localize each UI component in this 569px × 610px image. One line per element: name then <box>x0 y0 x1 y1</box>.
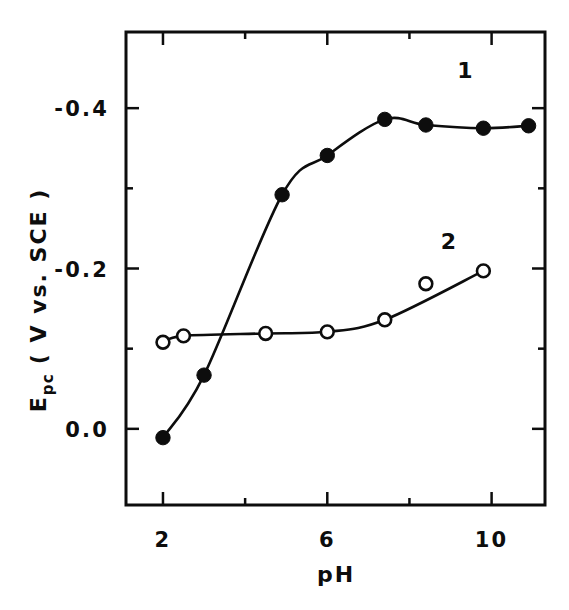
x-axis-title: pH <box>317 562 355 587</box>
y-axis-title-base: E <box>26 395 51 412</box>
data-point <box>521 119 535 133</box>
series-markers <box>156 112 536 445</box>
y-axis-tick-labels: -0.4-0.20.0 <box>54 97 109 442</box>
x-tick-label: 6 <box>319 528 336 552</box>
data-point <box>177 329 190 342</box>
y-axis-title-units: ( V vs. SCE ) <box>26 188 51 365</box>
series-label-2: 2 <box>441 229 456 254</box>
series-label-1: 1 <box>457 58 472 83</box>
data-point <box>419 277 432 290</box>
data-point <box>419 118 433 132</box>
figure-container: 2610 -0.4-0.20.0 12 pH Epc( V vs. SCE ) <box>0 0 569 610</box>
data-point <box>378 112 392 126</box>
y-tick-label: -0.2 <box>54 258 109 282</box>
data-point <box>197 368 211 382</box>
data-point <box>157 336 170 349</box>
x-axis-tick-labels: 2610 <box>155 528 509 552</box>
x-axis-ticks <box>163 32 492 505</box>
x-tick-label: 10 <box>475 528 509 552</box>
data-point <box>476 121 490 135</box>
data-point <box>477 265 490 278</box>
series-curve-1 <box>163 118 529 438</box>
y-tick-label: 0.0 <box>65 418 109 442</box>
data-point <box>156 430 170 444</box>
data-point <box>275 188 289 202</box>
y-tick-label: -0.4 <box>54 97 109 121</box>
chart-canvas: 2610 -0.4-0.20.0 12 pH Epc( V vs. SCE ) <box>0 0 569 610</box>
y-axis-title-subscript: pc <box>39 373 57 395</box>
series-curves <box>163 118 529 438</box>
x-tick-label: 2 <box>155 528 172 552</box>
series-inline-labels: 12 <box>441 58 473 254</box>
y-axis-title: Epc( V vs. SCE ) <box>26 188 57 413</box>
data-point <box>320 148 334 162</box>
y-axis-title-group: Epc( V vs. SCE ) <box>26 188 57 413</box>
data-point <box>378 313 391 326</box>
data-point <box>321 325 334 338</box>
data-point <box>259 327 272 340</box>
